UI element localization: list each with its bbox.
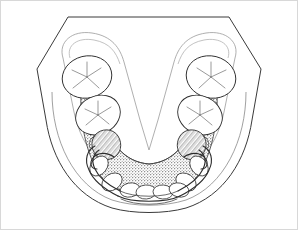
dental-cast-illustration: [0, 0, 298, 230]
dental-cast-figure: Mandibular cast with removable orthodont…: [0, 0, 298, 230]
